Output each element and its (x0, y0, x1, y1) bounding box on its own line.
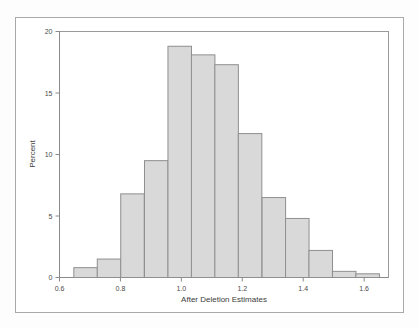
histogram-bar (332, 271, 356, 277)
x-axis-title: After Deletion Estimates (181, 295, 267, 304)
x-tick-label: 1.2 (237, 285, 247, 292)
histogram-bar (74, 268, 98, 278)
x-tick-label: 0.8 (116, 285, 126, 292)
x-tick-label: 1.4 (298, 285, 308, 292)
histogram-figure: 05101520 0.60.81.01.21.41.6 Percent Afte… (0, 0, 418, 328)
y-tick-label: 0 (49, 274, 53, 281)
histogram-bar (121, 194, 145, 278)
x-tick-label: 1.6 (359, 285, 369, 292)
histogram-bar (309, 250, 333, 277)
histogram-bar (356, 274, 380, 278)
histogram-bar (215, 65, 239, 278)
y-tick-label: 5 (49, 213, 53, 220)
x-axis-ticks: 0.60.81.01.21.41.6 (55, 278, 369, 292)
histogram-chart: 05101520 0.60.81.01.21.41.6 Percent Afte… (0, 0, 418, 328)
y-axis-title: Percent (28, 139, 37, 167)
histogram-bar (191, 55, 215, 278)
histogram-bar (262, 198, 286, 278)
y-tick-label: 20 (45, 28, 53, 35)
y-tick-label: 15 (45, 90, 53, 97)
x-tick-label: 1.0 (176, 285, 186, 292)
histogram-bar (238, 134, 262, 278)
histogram-bar (97, 259, 121, 277)
histogram-bar (286, 218, 310, 277)
y-tick-label: 10 (45, 151, 53, 158)
histogram-bar (144, 161, 168, 278)
histogram-bars (74, 46, 380, 277)
x-tick-label: 0.6 (55, 285, 65, 292)
histogram-bar (168, 46, 192, 277)
y-axis-ticks: 05101520 (45, 28, 60, 281)
